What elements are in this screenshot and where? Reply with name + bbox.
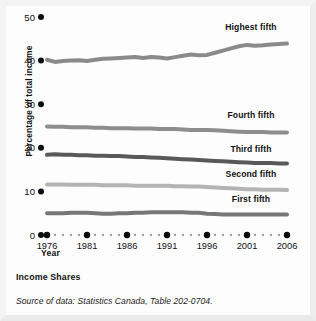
x-tick-dot-minor [54,234,56,236]
figure-caption-title: Income Shares [16,272,81,282]
x-tick-dot-minor [174,234,176,236]
series-line-fourth-fifth [47,126,287,132]
y-tick-dot [38,232,44,238]
y-tick-label: 0 [30,230,35,241]
x-tick-label: 2006 [277,241,298,251]
x-tick-dot-major [84,232,90,238]
y-tick-label: 10 [24,186,35,197]
x-tick-dot-minor [238,234,240,236]
x-tick-dot-minor [78,234,80,236]
x-tick-dot-minor [102,234,104,236]
x-tick-dot-major [284,232,290,238]
figure-caption-source: Source of data: Statistics Canada, Table… [16,296,213,306]
series-label-first-fifth: First fifth [232,194,270,204]
x-tick-dot-minor [254,234,256,236]
x-tick-dot-minor [142,234,144,236]
y-tick-dot [38,101,44,107]
series-label-second-fifth: Second fifth [226,169,277,179]
x-tick-dot-major [204,232,210,238]
x-tick-dot-major [244,232,250,238]
x-tick-dot-minor [110,234,112,236]
x-tick-label: 1996 [197,241,218,251]
x-tick-dot-minor [62,234,64,236]
x-tick-dot-minor [70,234,72,236]
x-tick-label: 1991 [157,241,178,251]
x-tick-dot-minor [262,234,264,236]
series-label-highest-fifth: Highest fifth [225,22,276,32]
x-tick-dot-major [164,232,170,238]
x-tick-dot-minor [230,234,232,236]
x-tick-dot-minor [94,234,96,236]
series-label-third-fifth: Third fifth [230,144,271,154]
y-tick-dot [38,188,44,194]
x-axis: 1976198119861991199620012006 [37,232,298,251]
x-tick-dot-minor [198,234,200,236]
series-label-fourth-fifth: Fourth fifth [227,110,274,120]
line-chart: 010203040501976198119861991199620012006H… [0,0,316,262]
y-tick-label: 50 [24,12,35,23]
x-tick-dot-minor [150,234,152,236]
plot-area: Percentage of total income 0102030405019… [0,0,316,262]
series-line-first-fifth [47,212,287,214]
series-line-second-fifth [47,184,287,190]
y-tick-dot [38,145,44,151]
y-tick-dot [38,58,44,64]
x-tick-dot-major [44,232,50,238]
x-tick-dot-minor [182,234,184,236]
x-tick-dot-minor [270,234,272,236]
x-tick-dot-minor [190,234,192,236]
x-tick-label: 1981 [77,241,98,251]
x-tick-label: 2001 [237,241,258,251]
income-shares-figure: Percentage of total income 0102030405019… [0,0,316,321]
x-tick-dot-major [124,232,130,238]
y-axis: 01020304050 [24,12,44,241]
y-tick-label: 40 [24,55,35,66]
series-line-highest-fifth [47,44,287,62]
x-tick-dot-minor [278,234,280,236]
y-tick-dot [38,14,44,20]
x-tick-label: 1986 [117,241,138,251]
x-tick-dot-minor [158,234,160,236]
x-tick-dot-minor [222,234,224,236]
y-tick-label: 30 [24,99,35,110]
y-tick-label: 20 [24,142,35,153]
series-line-third-fifth [47,154,287,163]
x-tick-dot-minor [214,234,216,236]
x-tick-dot-minor [134,234,136,236]
x-tick-dot-minor [118,234,120,236]
x-axis-title: Year [41,248,60,258]
